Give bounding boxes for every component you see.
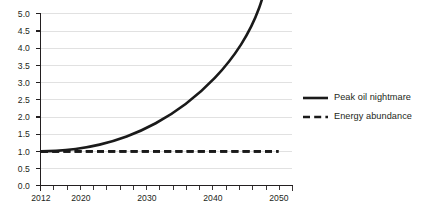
x-tick-label-2050: 2050 (264, 194, 294, 203)
y-tick-label-1-5: 1.5 (8, 130, 30, 139)
x-axis-ticks (41, 186, 293, 191)
line-chart: 5.0 4.5 4.0 3.5 3.0 2.5 2.0 1.5 1.0 0.5 … (0, 0, 436, 209)
peak-oil-nightmare-curve-shown (41, 0, 265, 151)
legend-label-peak-oil-nightmare: Peak oil nightmare (334, 93, 411, 102)
legend-label-energy-abundance: Energy abundance (334, 112, 412, 121)
gridlines (40, 14, 292, 169)
legend-item-peak-oil-nightmare[interactable]: Peak oil nightmare (303, 88, 436, 107)
y-tick-label-4-5: 4.5 (8, 27, 30, 36)
x-tick-label-2012: 2012 (26, 194, 56, 203)
y-tick-label-5-0: 5.0 (8, 10, 30, 19)
y-tick-label-1-0: 1.0 (8, 148, 30, 157)
y-tick-label-3-5: 3.5 (8, 62, 30, 71)
legend-swatch-dashed-icon (303, 112, 328, 122)
x-tick-label-2040: 2040 (198, 194, 228, 203)
legend-swatch-solid-icon (303, 93, 328, 103)
x-tick-label-2020: 2020 (66, 194, 96, 203)
y-tick-label-4-0: 4.0 (8, 44, 30, 53)
y-axis-ticks (36, 14, 40, 186)
legend-item-energy-abundance[interactable]: Energy abundance (303, 107, 436, 126)
chart-legend: Peak oil nightmare Energy abundance (303, 88, 436, 126)
y-tick-label-0-5: 0.5 (8, 165, 30, 174)
y-tick-label-2-0: 2.0 (8, 113, 30, 122)
x-tick-label-2030: 2030 (132, 194, 162, 203)
y-tick-label-0-0: 0.0 (8, 182, 30, 191)
y-tick-label-3-0: 3.0 (8, 79, 30, 88)
y-tick-label-2-5: 2.5 (8, 96, 30, 105)
